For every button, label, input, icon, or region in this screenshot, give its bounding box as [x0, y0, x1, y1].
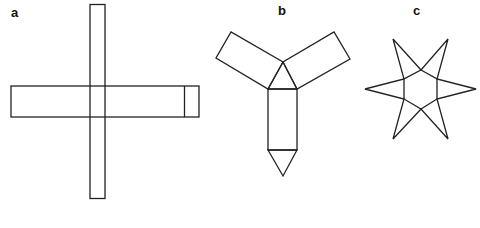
bottom-rectangle [268, 89, 297, 150]
vertical-strip [90, 5, 105, 199]
figure-canvas [0, 0, 480, 228]
cross-net-figure [11, 5, 199, 199]
center-triangle [268, 62, 297, 89]
right-arm-rectangle [283, 32, 350, 89]
inner-hexagon [404, 70, 437, 109]
six-point-star-figure [365, 39, 476, 139]
bottom-triangle [268, 150, 297, 176]
three-arm-net-figure [216, 32, 350, 176]
left-arm-rectangle [216, 32, 283, 89]
star-outline [365, 39, 476, 139]
